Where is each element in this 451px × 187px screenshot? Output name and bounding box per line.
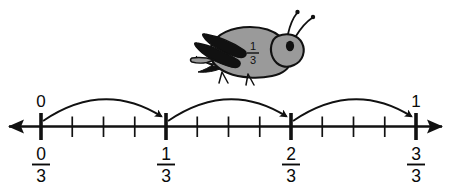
fraction-label-1-3: 1 3 (157, 144, 175, 186)
jump-arcs (43, 99, 412, 121)
endpoint-label-right: 1 (411, 92, 420, 111)
fraction-label-2-3: 2 3 (282, 144, 300, 186)
fraction-denominator: 3 (36, 166, 46, 186)
fraction-denominator: 3 (411, 166, 421, 186)
fraction-numerator: 0 (36, 144, 46, 164)
endpoint-label-left: 0 (36, 92, 45, 111)
grasshopper-illustration: 1 3 (191, 10, 316, 85)
jump-arc-1-to-2 (168, 99, 287, 121)
grasshopper-fraction-numerator: 1 (250, 40, 256, 52)
jump-arc-0-to-1 (43, 99, 162, 121)
jump-arc-2-to-3 (293, 99, 412, 121)
fraction-denominator: 3 (161, 166, 171, 186)
grasshopper-head (271, 34, 304, 67)
number-line-axis (8, 120, 443, 134)
number-line-figure: 0 1 0 3 1 3 2 3 3 3 (0, 0, 451, 187)
grasshopper-tail (191, 58, 215, 63)
grasshopper-antenna-right (296, 18, 312, 36)
fraction-label-0-3: 0 3 (32, 144, 50, 186)
grasshopper-fraction-denominator: 3 (250, 54, 256, 66)
fraction-numerator: 3 (411, 144, 421, 164)
fraction-numerator: 2 (286, 144, 296, 164)
fraction-numerator: 1 (161, 144, 171, 164)
fraction-denominator: 3 (286, 166, 296, 186)
grasshopper-eye (286, 41, 294, 51)
grasshopper-antenna-tip (311, 15, 315, 19)
grasshopper-antenna-tip (295, 10, 299, 14)
grasshopper-mid-leg (219, 72, 228, 83)
grasshopper-antenna-left (288, 13, 297, 34)
fraction-label-3-3: 3 3 (407, 144, 425, 186)
